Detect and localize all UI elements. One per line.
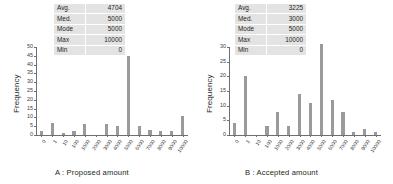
- x-tick: [310, 135, 311, 137]
- stats-value: 5000: [267, 24, 307, 34]
- y-tick-label: 45: [18, 53, 33, 58]
- stats-row: Mode5000: [235, 24, 307, 34]
- stats-value: 4704: [86, 4, 126, 14]
- x-tick: [289, 135, 290, 137]
- y-tick-label: 50: [18, 44, 33, 49]
- panel-b: Avg.3225Med.3000Mode5000Max10000Min0 051…: [197, 0, 393, 184]
- stats-row: Mode5000: [54, 24, 126, 34]
- y-tick-label: 40: [18, 62, 33, 67]
- y-tick-label: 0: [18, 132, 33, 137]
- stats-key: Med.: [54, 14, 86, 24]
- bar-slot: [229, 47, 381, 135]
- stats-value: 5000: [86, 24, 126, 34]
- stats-key: Mode: [54, 24, 86, 34]
- y-axis-title: Frequency: [205, 74, 214, 113]
- x-tick: [376, 135, 377, 137]
- x-tick: [354, 135, 355, 137]
- x-tick: [256, 135, 257, 137]
- x-tick: [107, 135, 108, 137]
- x-tick: [245, 135, 246, 137]
- x-tick: [139, 135, 140, 137]
- x-tick: [117, 135, 118, 137]
- stats-key: Avg.: [54, 4, 86, 14]
- x-tick: [267, 135, 268, 137]
- stats-key: Max: [54, 35, 86, 45]
- x-tick: [234, 135, 235, 137]
- stats-row: Min0: [235, 45, 307, 55]
- stats-table-b: Avg.3225Med.3000Mode5000Max10000Min0: [234, 3, 307, 56]
- x-tick: [150, 135, 151, 137]
- x-tick: [365, 135, 366, 137]
- stats-key: Mode: [235, 24, 267, 34]
- stats-row: Min0: [54, 45, 126, 55]
- x-tick: [63, 135, 64, 137]
- stats-row: Med.5000: [54, 14, 126, 24]
- chart-a: 05101520253035404550Frequency01101001000…: [36, 47, 188, 135]
- x-tick: [161, 135, 162, 137]
- stats-row: Max10000: [54, 35, 126, 45]
- x-tick: [52, 135, 53, 137]
- stats-row: Avg.3225: [235, 4, 307, 14]
- x-tick: [128, 135, 129, 137]
- stats-key: Med.: [235, 14, 267, 24]
- bar-slot: [36, 47, 188, 135]
- caption-a: A : Proposed amount: [55, 168, 129, 177]
- y-tick-label: 5: [18, 123, 33, 128]
- x-tick: [183, 135, 184, 137]
- panel-a: Avg.4704Med.5000Mode5000Max10000Min0 051…: [0, 0, 196, 184]
- stats-value: 10000: [86, 35, 126, 45]
- stats-key: Avg.: [235, 4, 267, 14]
- x-tick: [321, 135, 322, 137]
- x-axis-line: [229, 135, 381, 136]
- figure-root: Avg.4704Med.5000Mode5000Max10000Min0 051…: [0, 0, 393, 184]
- stats-value: 0: [267, 45, 307, 55]
- stats-table-a: Avg.4704Med.5000Mode5000Max10000Min0: [53, 3, 126, 56]
- stats-value: 3000: [267, 14, 307, 24]
- y-tick: [34, 135, 36, 136]
- bar: [181, 116, 184, 135]
- chart-b: 051015202530Frequency0110100100020003000…: [229, 47, 381, 135]
- y-tick-label: 10: [18, 115, 33, 120]
- stats-row: Avg.4704: [54, 4, 126, 14]
- stats-key: Max: [235, 35, 267, 45]
- y-axis-title: Frequency: [12, 74, 21, 113]
- x-tick: [343, 135, 344, 137]
- y-tick-label: 30: [211, 44, 226, 49]
- stats-value: 0: [86, 45, 126, 55]
- stats-key: Min: [54, 45, 86, 55]
- y-tick-label: 5: [211, 118, 226, 123]
- x-tick: [41, 135, 42, 137]
- stats-value: 10000: [267, 35, 307, 45]
- y-tick-label: 0: [211, 132, 226, 137]
- x-axis-line: [36, 135, 188, 136]
- x-tick: [96, 135, 97, 137]
- x-tick: [74, 135, 75, 137]
- caption-b: B : Accepted amount: [245, 168, 318, 177]
- y-tick: [227, 135, 229, 136]
- stats-row: Max10000: [235, 35, 307, 45]
- x-tick: [332, 135, 333, 137]
- y-tick-label: 25: [211, 59, 226, 64]
- stats-value: 5000: [86, 14, 126, 24]
- stats-key: Min: [235, 45, 267, 55]
- x-tick: [278, 135, 279, 137]
- stats-value: 3225: [267, 4, 307, 14]
- x-tick: [85, 135, 86, 137]
- x-tick: [172, 135, 173, 137]
- stats-row: Med.3000: [235, 14, 307, 24]
- x-tick: [300, 135, 301, 137]
